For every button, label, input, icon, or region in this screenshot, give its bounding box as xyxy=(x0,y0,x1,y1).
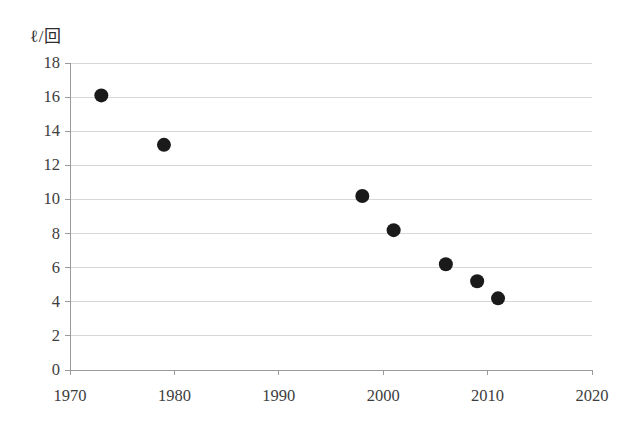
data-point-marker xyxy=(439,257,453,271)
x-tick-label: 1990 xyxy=(244,388,314,405)
y-tick-label: 0 xyxy=(16,362,60,379)
tick-marks-group xyxy=(65,63,592,375)
y-tick-label: 10 xyxy=(16,191,60,208)
data-points-group xyxy=(94,88,505,305)
y-tick-label: 2 xyxy=(16,328,60,345)
y-axis-unit-label: ℓ/回 xyxy=(30,28,61,45)
y-tick-label: 14 xyxy=(16,123,60,140)
y-tick-label: 12 xyxy=(16,157,60,174)
plot-svg xyxy=(70,63,592,370)
x-tick-label: 1970 xyxy=(35,388,105,405)
y-tick-label: 16 xyxy=(16,89,60,106)
x-tick-label: 2010 xyxy=(453,388,523,405)
axis-lines-group xyxy=(70,63,592,370)
data-point-marker xyxy=(470,274,484,288)
y-tick-label: 6 xyxy=(16,259,60,276)
x-tick-label: 1980 xyxy=(139,388,209,405)
data-point-marker xyxy=(387,223,401,237)
data-point-marker xyxy=(491,291,505,305)
data-point-marker xyxy=(355,189,369,203)
x-tick-label: 2020 xyxy=(557,388,627,405)
data-point-marker xyxy=(94,88,108,102)
data-point-marker xyxy=(157,138,171,152)
plot-area xyxy=(70,63,592,370)
y-tick-label: 4 xyxy=(16,294,60,311)
gridlines-group xyxy=(70,63,592,370)
y-tick-label: 8 xyxy=(16,225,60,242)
y-tick-label: 18 xyxy=(16,55,60,72)
scatter-chart-figure: ℓ/回 024681012141618 19701980199020002010… xyxy=(0,0,635,443)
x-tick-label: 2000 xyxy=(348,388,418,405)
